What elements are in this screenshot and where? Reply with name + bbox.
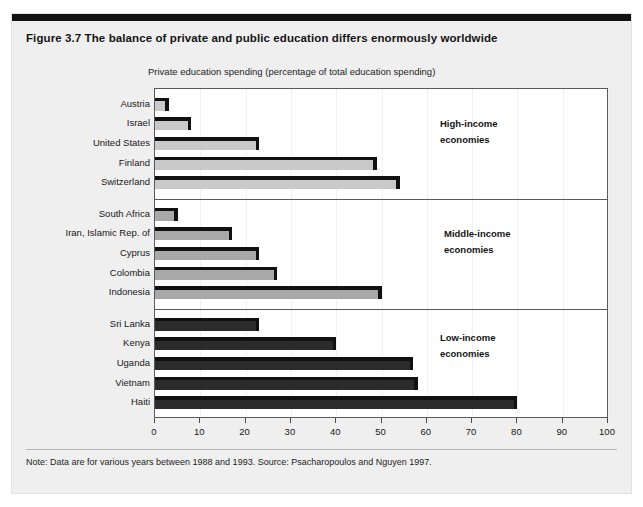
footnote-divider <box>26 449 617 450</box>
footnote-text: Note: Data are for various years between… <box>26 457 432 467</box>
bar[interactable] <box>155 98 169 111</box>
bar-right-edge <box>414 377 418 390</box>
x-tick-label: 50 <box>375 426 386 437</box>
category-label: Switzerland <box>0 176 150 187</box>
category-label: Cyprus <box>0 247 150 258</box>
bar-top-edge <box>155 396 517 400</box>
group-annotation-line: economies <box>440 346 495 362</box>
bar-row <box>155 208 609 221</box>
category-label: South Africa <box>0 208 150 219</box>
bar-row <box>155 396 609 409</box>
bar-right-edge <box>410 357 414 370</box>
bar-row <box>155 337 609 350</box>
x-tick <box>516 418 517 423</box>
x-tick <box>335 418 336 423</box>
bar-right-edge <box>514 396 518 409</box>
group-annotation-line: economies <box>444 242 511 258</box>
bar[interactable] <box>155 176 400 189</box>
bar-right-edge <box>229 227 233 240</box>
bar-row <box>155 227 609 240</box>
group-annotation-line: economies <box>440 132 498 148</box>
bar-fill <box>155 360 410 370</box>
bar-right-edge <box>333 337 337 350</box>
category-label: Colombia <box>0 267 150 278</box>
group-annotation-low-income: Low-incomeeconomies <box>440 330 495 362</box>
bar-top-edge <box>155 247 259 251</box>
bar[interactable] <box>155 396 517 409</box>
bar-fill <box>155 380 415 390</box>
bar-top-edge <box>155 318 259 322</box>
bar[interactable] <box>155 377 418 390</box>
group-divider <box>155 309 607 310</box>
bar-top-edge <box>155 157 377 161</box>
x-tick-label: 70 <box>466 426 477 437</box>
x-tick-label: 60 <box>421 426 432 437</box>
plot-area <box>154 88 608 418</box>
bar-row <box>155 176 609 189</box>
group-divider <box>155 199 607 200</box>
bar-top-edge <box>155 357 413 361</box>
category-label: Vietnam <box>0 377 150 388</box>
bar[interactable] <box>155 318 259 331</box>
x-tick <box>154 418 155 423</box>
bar-right-edge <box>378 286 382 299</box>
group-annotation-line: Middle-income <box>444 226 511 242</box>
bar[interactable] <box>155 227 232 240</box>
top-rule-divider <box>12 14 631 21</box>
category-label: Haiti <box>0 396 150 407</box>
bar-row <box>155 377 609 390</box>
category-label: Austria <box>0 98 150 109</box>
bar[interactable] <box>155 267 277 280</box>
bar[interactable] <box>155 247 259 260</box>
bar[interactable] <box>155 157 377 170</box>
bar[interactable] <box>155 208 178 221</box>
x-tick <box>199 418 200 423</box>
bar-row <box>155 137 609 150</box>
x-axis: 0102030405060708090100 <box>154 418 608 446</box>
bar[interactable] <box>155 286 382 299</box>
bar-fill <box>155 179 397 189</box>
bar-top-edge <box>155 227 232 231</box>
x-tick-label: 40 <box>330 426 341 437</box>
group-annotation-line: Low-income <box>440 330 495 346</box>
bar-row <box>155 247 609 260</box>
bar-fill <box>155 101 166 111</box>
x-tick <box>471 418 472 423</box>
category-label: Sri Lanka <box>0 318 150 329</box>
bar-top-edge <box>155 377 418 381</box>
bar-fill <box>155 340 333 350</box>
bar[interactable] <box>155 137 259 150</box>
x-tick <box>245 418 246 423</box>
bar[interactable] <box>155 117 191 130</box>
category-label: United States <box>0 137 150 148</box>
bar-right-edge <box>256 318 260 331</box>
group-annotation-line: High-income <box>440 116 498 132</box>
bar-row <box>155 157 609 170</box>
bar-row <box>155 267 609 280</box>
category-label: Iran, Islamic Rep. of <box>0 227 150 238</box>
bar-row <box>155 117 609 130</box>
x-tick-label: 100 <box>599 426 615 437</box>
bar-top-edge <box>155 267 277 271</box>
bar-row <box>155 286 609 299</box>
bar[interactable] <box>155 337 336 350</box>
category-labels-column: AustriaIsraelUnited StatesFinlandSwitzer… <box>0 88 150 418</box>
bar-top-edge <box>155 117 191 121</box>
x-tick <box>426 418 427 423</box>
bar-top-edge <box>155 286 382 290</box>
bar-row <box>155 318 609 331</box>
bar-row <box>155 357 609 370</box>
bar-right-edge <box>174 208 178 221</box>
bar-top-edge <box>155 137 259 141</box>
category-label: Kenya <box>0 337 150 348</box>
group-annotation-middle-income: Middle-incomeeconomies <box>444 226 511 258</box>
bar-right-edge <box>274 267 278 280</box>
x-tick-label: 30 <box>285 426 296 437</box>
bar-top-edge <box>155 337 336 341</box>
bar-right-edge <box>396 176 400 189</box>
bar-fill <box>155 250 256 260</box>
bar[interactable] <box>155 357 413 370</box>
x-tick <box>290 418 291 423</box>
bar-fill <box>155 230 229 240</box>
x-tick-label: 20 <box>239 426 250 437</box>
